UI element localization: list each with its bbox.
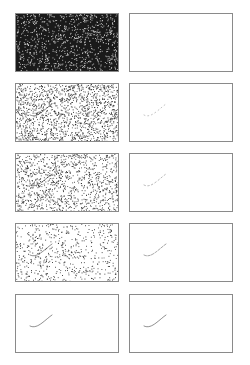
walking-lion-icon xyxy=(16,154,118,211)
walking-lion-icon xyxy=(130,84,232,141)
walking-lion-icon xyxy=(16,295,118,352)
reconstruction-panel-2 xyxy=(129,83,233,142)
reconstruction-panel-4 xyxy=(129,223,233,282)
noisy-input-panel-4 xyxy=(15,223,119,282)
noisy-input-panel-2 xyxy=(15,83,119,142)
reconstruction-panel-1 xyxy=(129,13,233,72)
walking-lion-icon xyxy=(130,295,232,352)
walking-lion-icon xyxy=(16,14,118,71)
walking-lion-icon xyxy=(16,224,118,281)
reconstruction-panel-3 xyxy=(129,153,233,212)
walking-lion-icon xyxy=(130,14,232,71)
walking-lion-icon xyxy=(16,84,118,141)
walking-lion-icon xyxy=(130,154,232,211)
noisy-input-panel-5 xyxy=(15,294,119,353)
noisy-input-panel-3 xyxy=(15,153,119,212)
walking-lion-icon xyxy=(130,224,232,281)
noisy-input-panel-1 xyxy=(15,13,119,72)
reconstruction-panel-5 xyxy=(129,294,233,353)
